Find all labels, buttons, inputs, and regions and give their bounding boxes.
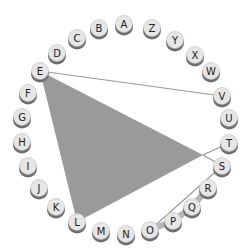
node-label: C xyxy=(74,33,81,44)
node-label: Y xyxy=(171,35,179,46)
node-c: C xyxy=(68,30,86,50)
node-j: J xyxy=(30,180,48,200)
node-label: T xyxy=(225,138,233,149)
node-b: B xyxy=(90,20,108,40)
node-f: F xyxy=(19,85,37,105)
node-u: U xyxy=(220,110,238,130)
node-label: V xyxy=(219,91,226,102)
node-v: V xyxy=(213,88,231,108)
node-t: T xyxy=(220,135,238,155)
node-i: I xyxy=(19,158,37,178)
node-a: A xyxy=(115,16,133,36)
node-label: R xyxy=(205,183,212,194)
node-r: R xyxy=(199,180,217,200)
node-n: N xyxy=(117,226,135,246)
node-label: E xyxy=(37,66,43,77)
node-y: Y xyxy=(166,32,184,52)
node-label: G xyxy=(18,112,26,123)
node-label: Z xyxy=(149,23,156,34)
node-label: O xyxy=(146,225,154,236)
node-label: L xyxy=(74,217,80,228)
node-label: J xyxy=(37,183,41,194)
node-label: X xyxy=(192,50,199,61)
node-w: W xyxy=(202,63,220,83)
letter-circle-diagram: AZYXWVUTSRQPONMLKJIHGFEDCB xyxy=(0,0,248,251)
node-q: Q xyxy=(183,199,201,219)
node-label: I xyxy=(27,161,30,172)
node-label: P xyxy=(170,216,176,227)
node-m: M xyxy=(92,223,110,243)
node-label: N xyxy=(122,229,129,240)
node-g: G xyxy=(13,109,31,129)
filled-triangle xyxy=(40,71,203,222)
node-label: M xyxy=(97,226,106,237)
node-l: L xyxy=(68,214,86,234)
node-label: A xyxy=(121,19,128,30)
node-e: E xyxy=(31,63,49,83)
node-p: P xyxy=(164,213,182,233)
node-h: H xyxy=(13,134,31,154)
node-label: Q xyxy=(188,202,196,213)
node-label: W xyxy=(206,66,216,77)
node-x: X xyxy=(186,47,204,67)
node-o: O xyxy=(141,222,159,242)
node-label: K xyxy=(53,202,60,213)
node-label: H xyxy=(18,137,26,148)
node-k: K xyxy=(47,199,65,219)
node-z: Z xyxy=(143,20,161,40)
node-s: S xyxy=(213,158,231,178)
node-d: D xyxy=(48,45,66,65)
node-label: S xyxy=(219,161,225,172)
node-label: U xyxy=(225,113,232,124)
node-label: D xyxy=(53,48,61,59)
node-label: F xyxy=(25,88,31,99)
node-label: B xyxy=(96,23,103,34)
